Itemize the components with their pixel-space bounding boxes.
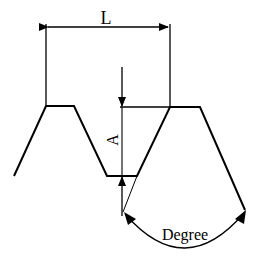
depth-label: A bbox=[104, 134, 121, 146]
angle-dimension: Degree bbox=[124, 210, 246, 248]
depth-dimension: A bbox=[104, 67, 170, 216]
pitch-dimension: L bbox=[46, 8, 170, 107]
pitch-label: L bbox=[101, 8, 112, 28]
thread-profile-diagram: L A Degree bbox=[0, 0, 257, 259]
angle-label: Degree bbox=[162, 226, 208, 244]
flank-extension-line bbox=[123, 176, 137, 212]
